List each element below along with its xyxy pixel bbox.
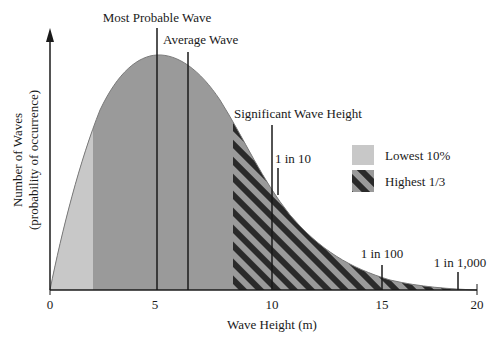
tick-label-5: 5 xyxy=(152,297,159,312)
wave-height-chart: 0 5 10 15 20 Wave Height (m) Number of W… xyxy=(0,0,495,342)
y-axis-title: Number of Waves xyxy=(10,113,25,207)
tick-label-20: 20 xyxy=(471,297,484,312)
legend: Lowest 10% Highest 1/3 xyxy=(352,145,451,192)
tick-label-0: 0 xyxy=(47,297,54,312)
significant-label: Significant Wave Height xyxy=(234,106,362,121)
distribution-area xyxy=(50,40,483,290)
tick-label-10: 10 xyxy=(266,297,279,312)
one-in-1000-label: 1 in 1,000 xyxy=(434,255,486,270)
one-in-100-label: 1 in 100 xyxy=(361,246,404,261)
legend-label-lowest: Lowest 10% xyxy=(385,148,451,163)
y-axis-subtitle: (probability of occurrence) xyxy=(26,90,41,230)
one-in-10-label: 1 in 10 xyxy=(275,151,311,166)
legend-swatch-lowest xyxy=(352,145,374,165)
tick-label-15: 15 xyxy=(376,297,389,312)
legend-label-highest: Highest 1/3 xyxy=(385,174,445,189)
most-probable-label: Most Probable Wave xyxy=(103,10,212,25)
lowest-10-region xyxy=(50,40,93,290)
y-axis-arrow-icon xyxy=(46,28,54,42)
x-axis-title: Wave Height (m) xyxy=(227,317,317,332)
average-label: Average Wave xyxy=(163,32,239,47)
chart-svg: 0 5 10 15 20 Wave Height (m) Number of W… xyxy=(0,0,495,342)
legend-swatch-highest xyxy=(352,170,374,192)
